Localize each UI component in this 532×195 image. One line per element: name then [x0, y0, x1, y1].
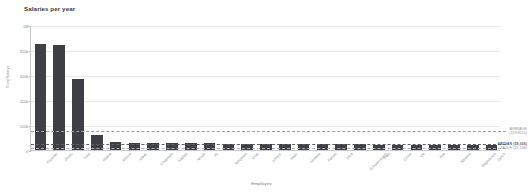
x-tick-label: Novak — [196, 152, 206, 162]
x-tick-label: Reeve — [102, 152, 112, 162]
x-tick-label: Lynch — [496, 152, 506, 162]
y-tick-label: 600k — [20, 74, 28, 79]
x-tick-label: Magnusson — [480, 152, 496, 168]
x-axis-ticks: FournierJonesTrentReeveAlonsoMeierChapma… — [30, 152, 500, 192]
x-tick-label: Chapman — [160, 152, 174, 166]
y-tick-label: 200k — [20, 124, 28, 129]
reference-label-line2: (159,851k) — [475, 131, 527, 135]
x-tick-label: Jones — [64, 152, 74, 162]
x-tick-label: Alonso — [121, 152, 132, 163]
x-tick-label: Moreau — [309, 152, 321, 164]
x-tick-label: Silva — [346, 152, 354, 160]
x-tick-label: Navarro — [460, 152, 472, 164]
x-tick-label: Ali — [213, 152, 219, 158]
x-tick-label: Lorenz — [271, 152, 282, 163]
reference-label-line1: MEDIAN (59,306) — [475, 142, 527, 146]
reference-label-line1: MODE (21,146) — [475, 146, 527, 150]
x-axis-title: Employee — [0, 181, 523, 186]
x-tick-label: Ferrari — [328, 152, 339, 163]
y-tick-label: 1M — [23, 24, 28, 29]
x-tick-label: Ott — [420, 152, 426, 158]
y-tick-label: 800k — [20, 49, 28, 54]
bar[interactable] — [72, 79, 84, 151]
x-tick-label: Meier — [139, 152, 148, 161]
chart-title: Salaries per year — [24, 5, 75, 12]
x-tick-label: Costa — [402, 152, 412, 162]
y-axis-title: Sum(Salary) — [6, 66, 10, 88]
x-tick-label: Haas — [289, 152, 298, 161]
bar[interactable] — [35, 44, 47, 150]
reference-line-median — [31, 144, 506, 145]
reference-label-median: MEDIAN (59,306) — [475, 142, 527, 146]
y-tick-label: 400k — [20, 99, 28, 104]
bar[interactable] — [53, 45, 65, 150]
x-tick-label: Bergman — [235, 152, 248, 165]
reference-label-mode: MODE (21,146) — [475, 146, 527, 150]
reference-label-average: AVERAGE(159,851k) — [475, 127, 527, 135]
reference-line-mode — [31, 148, 506, 149]
plot-area: 1M800k600k400k200k0 — [30, 26, 500, 151]
x-tick-label: Trent — [82, 152, 91, 161]
reference-line-average — [31, 131, 506, 132]
x-tick-label: Kaplan — [177, 152, 188, 163]
x-tick-label: Kim — [439, 152, 446, 159]
x-tick-label: Osei — [251, 152, 259, 160]
x-tick-label: Fournier — [46, 152, 59, 165]
